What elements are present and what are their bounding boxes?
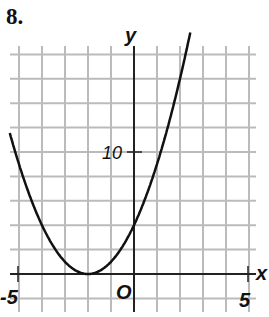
origin-label: O: [116, 281, 132, 303]
parabola-curve: [10, 32, 191, 274]
x-axis-label: x: [255, 262, 268, 284]
x-tick-max: 5: [239, 289, 251, 311]
parabola-graph: y x 10 -5 5 O: [0, 0, 269, 317]
y-axis-label: y: [124, 24, 137, 46]
x-tick-min: -5: [0, 286, 19, 308]
y-tick-10: 10: [102, 143, 122, 163]
